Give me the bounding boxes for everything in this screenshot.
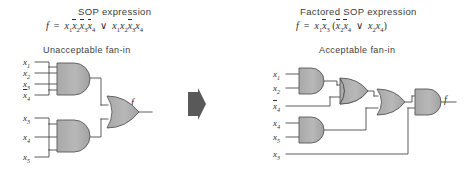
right-and-gate-1: [299, 68, 324, 94]
right-input-label-x4-bar: x4: [273, 101, 280, 113]
right-heading: Factored SOP expression: [300, 6, 417, 17]
left-panel-title: Unacceptable fan-in: [43, 45, 131, 55]
right-panel-title: Acceptable fan-in: [319, 45, 395, 55]
figure-canvas: SOP expression f = x1x2x3x4 ∨ x1x2x3x4 U…: [0, 0, 468, 171]
left-input-label-x4-bar: x4: [23, 90, 30, 102]
transform-arrow-icon: [188, 88, 206, 120]
right-formula: f = x1x3 (x2x4 ∨ x2x4): [296, 20, 387, 33]
right-input-label-x3: x3: [273, 149, 280, 161]
right-and-gate-2: [299, 117, 324, 143]
left-heading: SOP expression: [78, 6, 151, 17]
left-input-label-x4-lower: x4: [23, 132, 30, 144]
right-output-label: f: [444, 94, 447, 105]
right-input-label-x5: x5: [273, 132, 280, 144]
left-and-gate-top: [57, 63, 90, 95]
left-input-label-x3-lower: x3: [23, 113, 30, 125]
right-or-gate-2: [377, 89, 405, 115]
left-formula: f = x1x2x3x4 ∨ x1x2x3x4: [46, 20, 143, 33]
right-or-gate-1: [340, 78, 368, 104]
left-and-gate-bottom: [57, 120, 90, 152]
right-input-label-x2: x2: [273, 83, 280, 95]
right-input-label-x1: x1: [273, 69, 280, 81]
right-input-label-x4: x4: [273, 118, 280, 130]
left-input-label-x5: x5: [23, 152, 30, 164]
left-output-label: f: [131, 97, 134, 108]
right-and-gate-output: [415, 89, 441, 115]
left-or-gate: [107, 96, 139, 128]
